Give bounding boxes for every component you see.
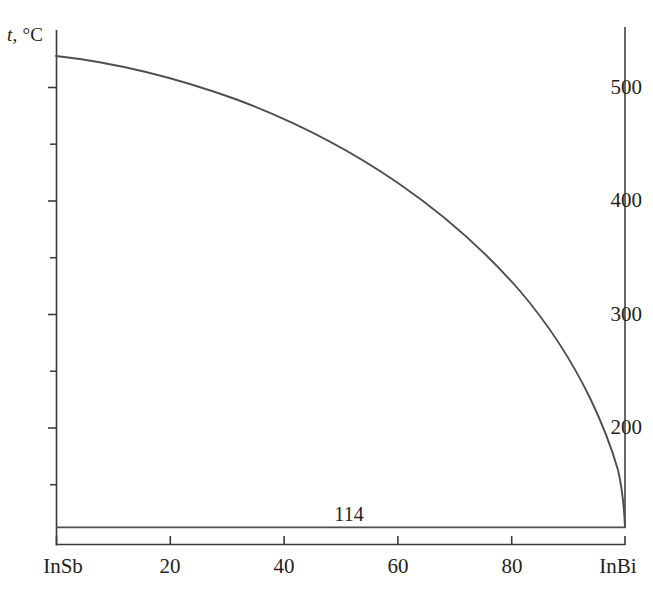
plot-canvas <box>0 0 653 597</box>
x-tick-label-inbi: InBi <box>599 556 636 577</box>
liquidus-curve <box>56 56 625 527</box>
y-tick-label-200: 200 <box>597 417 653 438</box>
y-tick-label-400: 400 <box>597 190 653 211</box>
x-tick-label-60: 60 <box>388 556 409 577</box>
y-axis-label-unit: , °C <box>12 24 43 45</box>
y-tick-label-300: 300 <box>597 304 653 325</box>
eutectic-temperature-annotation: 114 <box>334 504 363 524</box>
x-tick-label-40: 40 <box>274 556 295 577</box>
y-axis-label: t, °C <box>7 25 43 44</box>
x-tick-label-20: 20 <box>160 556 181 577</box>
phase-diagram-figure: t, °C 500 400 300 200 InSb 20 40 60 80 I… <box>0 0 653 597</box>
y-tick-label-500: 500 <box>597 77 653 98</box>
x-tick-label-80: 80 <box>502 556 523 577</box>
x-tick-label-insb: InSb <box>43 556 83 577</box>
x-axis-ticks <box>57 536 626 545</box>
